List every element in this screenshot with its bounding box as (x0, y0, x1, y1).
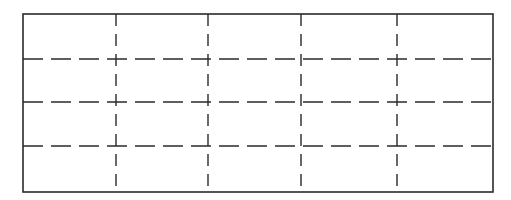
horizontal-dashed-lines (23, 59, 493, 146)
outer-border (23, 14, 493, 192)
dashed-grid-diagram (0, 0, 511, 200)
vertical-dashed-lines (116, 14, 397, 192)
